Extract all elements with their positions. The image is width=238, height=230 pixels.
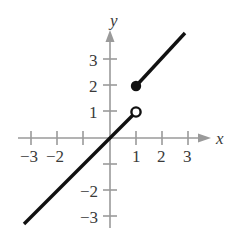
coordinate-plane [0,0,238,230]
y-axis-label: y [110,12,118,29]
filled-dot-point [131,81,141,91]
x-tick-label-1: 1 [132,148,141,165]
x-tick-label-neg3: −3 [20,148,38,165]
x-tick-label-neg2: −2 [46,148,64,165]
x-axis-arrowhead [198,134,211,143]
y-tick-label-1: 1 [89,104,98,121]
upper-branch-segment [136,33,185,86]
y-tick-label-3: 3 [89,52,98,69]
x-tick-label-3: 3 [183,148,192,165]
open-circle-point [131,107,140,116]
graph-figure: y x −3 −2 1 2 3 3 2 1 −2 −3 [0,0,238,230]
y-tick-label-2: 2 [89,78,98,95]
y-tick-label-neg2: −2 [80,183,98,200]
y-tick-label-neg3: −3 [80,209,98,226]
y-axis-arrowhead [106,30,115,42]
x-axis-label: x [216,130,224,147]
x-tick-label-2: 2 [157,148,166,165]
